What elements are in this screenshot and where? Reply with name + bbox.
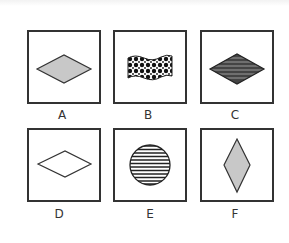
gray-diamond-icon — [29, 32, 99, 102]
option-a-box[interactable] — [27, 30, 101, 104]
checkered-flag-icon — [115, 32, 185, 102]
striped-diamond-icon — [202, 32, 272, 102]
option-e-box[interactable] — [113, 128, 187, 202]
option-e-label: E — [113, 207, 187, 221]
top-shade — [0, 0, 289, 6]
outline-diamond-icon — [29, 130, 99, 200]
option-c-label: C — [198, 108, 272, 122]
option-c-box[interactable] — [200, 30, 274, 104]
option-f-label: F — [198, 207, 272, 221]
option-a-label: A — [25, 108, 99, 122]
striped-circle-icon — [115, 130, 185, 200]
option-b-label: B — [111, 108, 185, 122]
option-b-box[interactable] — [113, 30, 187, 104]
option-d-box[interactable] — [27, 128, 101, 202]
option-f-box[interactable] — [200, 128, 274, 202]
vertical-gray-diamond-icon — [202, 130, 272, 200]
option-d-label: D — [22, 207, 96, 221]
